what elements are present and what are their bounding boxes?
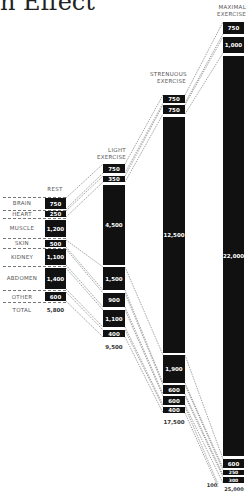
row-label-muscle: MUSCLE xyxy=(3,225,41,231)
row-separator xyxy=(3,266,66,267)
strenuous-other-box: 400 xyxy=(163,407,185,413)
row-label-skin: SKIN xyxy=(3,240,41,246)
strenuous-kidney-box: 600 xyxy=(163,385,185,394)
column-label-maximal-exercise: MAXIMAL EXERCISE xyxy=(212,4,246,18)
row-label-other: OTHER xyxy=(3,294,41,300)
rest-brain-box: 750 xyxy=(45,198,66,209)
strenuous-heart-box: 750 xyxy=(163,105,185,114)
rest-total: 5,800 xyxy=(43,307,68,313)
light-muscle-box: 4,500 xyxy=(103,185,125,265)
light-heart-box: 350 xyxy=(103,176,125,182)
maximal-heart-box: 1,000 xyxy=(223,37,244,53)
light-brain-box: 750 xyxy=(103,164,125,173)
row-separator xyxy=(3,302,66,303)
strenuous-abdomen-box: 600 xyxy=(163,396,185,405)
rest-heart-box: 250 xyxy=(45,211,66,217)
rest-kidney-box: 1,100 xyxy=(45,249,66,265)
row-label-kidney: KIDNEY xyxy=(3,254,41,260)
strenuous-muscle-box: 12,500 xyxy=(163,117,185,353)
maximal-muscle-box: 22,000 xyxy=(223,56,244,456)
maximal-brain-box: 750 xyxy=(223,22,244,34)
rest-abdomen-box: 1,400 xyxy=(45,268,66,289)
row-label-heart: HEART xyxy=(3,211,41,217)
strenuous-total: 17,500 xyxy=(160,419,188,425)
light-total: 9,500 xyxy=(101,344,127,350)
rest-other-box: 600 xyxy=(45,292,66,301)
light-abdomen-box: 1,100 xyxy=(103,310,125,327)
maximal-skin-box: 600 xyxy=(223,459,244,468)
maximal-other-value: 100 xyxy=(205,482,219,488)
light-skin-box: 1,500 xyxy=(103,267,125,290)
strenuous-brain-box: 750 xyxy=(163,95,185,103)
light-other-box: 400 xyxy=(103,330,125,337)
maximal-abdomen-box: 300 xyxy=(223,477,244,483)
light-kidney-box: 900 xyxy=(103,293,125,307)
row-label-total: TOTAL xyxy=(3,307,41,313)
row-separator xyxy=(3,238,66,239)
maximal-total: 25,000 xyxy=(220,486,248,492)
row-label-abdomen: ABDOMEN xyxy=(3,275,41,281)
maximal-kidney-box: 250 xyxy=(223,470,244,475)
rest-muscle-box: 1,200 xyxy=(45,220,66,237)
rest-skin-box: 500 xyxy=(45,240,66,247)
strenuous-skin-box: 1,900 xyxy=(163,355,185,383)
column-label-strenuous-exercise: STRENUOUS EXERCISE xyxy=(150,71,186,85)
column-label-light-exercise: LIGHT EXERCISE xyxy=(96,147,126,161)
row-separator xyxy=(3,290,66,291)
row-label-brain: BRAIN xyxy=(3,200,41,206)
row-separator xyxy=(3,218,66,219)
column-label-rest: REST xyxy=(44,186,66,193)
